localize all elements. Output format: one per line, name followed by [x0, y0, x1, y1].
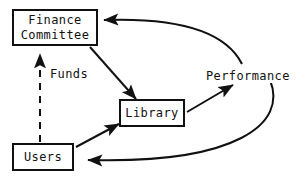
node-users[interactable]: Users	[12, 143, 74, 171]
node-finance-committee[interactable]: Finance Committee	[12, 9, 98, 46]
node-users-label: Users	[24, 150, 62, 165]
node-library[interactable]: Library	[119, 99, 185, 127]
diagram-canvas: Finance Committee Library Users Funds Pe…	[0, 0, 305, 180]
edge-label-funds: Funds	[49, 67, 89, 81]
edge-library-to-performance	[187, 85, 233, 112]
node-finance-committee-line-2: Committee	[21, 28, 90, 43]
node-finance-committee-line-1: Finance	[28, 13, 81, 28]
edge-funds-finance-to-library	[90, 47, 136, 99]
edge-label-performance: Performance	[205, 69, 291, 83]
node-library-label: Library	[125, 106, 178, 121]
edge-users-to-library	[76, 124, 119, 147]
edge-performance-to-finance-committee	[104, 20, 242, 64]
